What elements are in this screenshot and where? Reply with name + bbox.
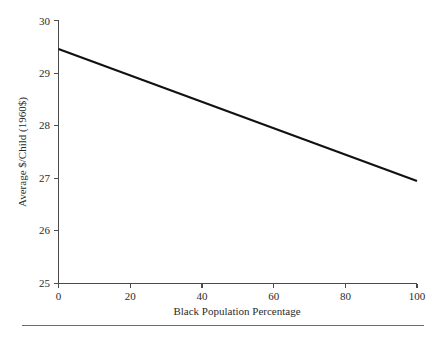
figure-container: 25 26 27 28 29 30 0 20 40 60 80 100 <box>0 0 446 337</box>
x-tick-label: 40 <box>197 290 209 302</box>
y-tick-label: 28 <box>39 119 51 131</box>
y-tick-label: 29 <box>39 67 51 79</box>
x-tick-label: 0 <box>56 290 62 302</box>
line-chart: 25 26 27 28 29 30 0 20 40 60 80 100 <box>0 0 446 337</box>
y-tick-label: 26 <box>39 224 51 236</box>
x-tick-label: 100 <box>409 290 426 302</box>
y-tick-label: 25 <box>39 277 51 289</box>
x-axis-title: Black Population Percentage <box>173 305 300 317</box>
y-tick-label: 27 <box>39 172 51 184</box>
y-tick-label: 30 <box>39 15 51 27</box>
y-axis-title: Average $/Child (1960$) <box>16 97 29 207</box>
x-tick-label: 60 <box>268 290 280 302</box>
x-tick-label: 80 <box>340 290 352 302</box>
x-tick-label: 20 <box>125 290 137 302</box>
chart-background <box>0 0 446 337</box>
